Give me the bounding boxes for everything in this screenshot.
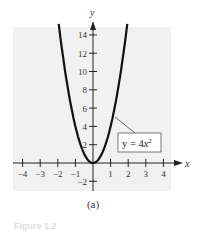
equation-label: y = 4x2 — [122, 137, 152, 149]
parabola-chart: −4−3−2−112342468101214−2 y = 4x2 x y — [0, 0, 199, 231]
y-axis-arrow-icon — [90, 21, 96, 30]
x-tick-label: 4 — [161, 169, 166, 179]
y-tick-label: −2 — [77, 177, 87, 187]
x-tick-label: −3 — [35, 169, 45, 179]
panel-label: (a) — [0, 198, 186, 210]
x-axis-label: x — [184, 158, 190, 169]
y-tick-label: 14 — [78, 30, 88, 40]
y-tick-label: 6 — [83, 104, 88, 114]
x-tick-label: −2 — [53, 169, 63, 179]
x-tick-label: 1 — [108, 169, 113, 179]
figure-caption: Figure 1.2 — [14, 221, 57, 231]
y-tick-label: 8 — [83, 85, 88, 95]
x-tick-label: 2 — [126, 169, 131, 179]
x-tick-label: 3 — [144, 169, 149, 179]
y-tick-label: 4 — [83, 122, 88, 132]
x-axis-arrow-icon — [174, 160, 183, 166]
y-tick-label: 10 — [78, 67, 88, 77]
y-tick-label: 12 — [78, 49, 87, 59]
y-axis-label: y — [89, 7, 95, 18]
x-tick-label: −4 — [18, 169, 28, 179]
plot-background — [13, 27, 171, 191]
